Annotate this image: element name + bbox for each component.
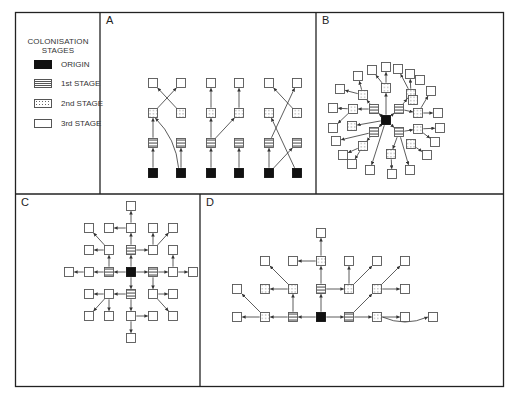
arrow-icon (271, 88, 294, 138)
third-stage-node-icon (345, 257, 354, 266)
third-stage-node-icon (169, 268, 178, 277)
third-stage-node-icon (406, 166, 415, 175)
arrow-icon (379, 114, 381, 116)
second-stage-node-icon (265, 109, 274, 118)
third-stage-node-icon (329, 104, 338, 113)
arrow-icon (155, 118, 178, 168)
third-stage-swatch-icon (34, 119, 52, 128)
third-stage-node-icon (149, 79, 158, 88)
third-stage-node-icon (169, 290, 178, 299)
arrow-icon (355, 151, 360, 159)
third-stage-node-icon (394, 65, 403, 74)
second-stage-node-icon (359, 91, 368, 100)
arrow-icon (376, 75, 382, 83)
second-stage-node-icon (414, 109, 423, 118)
third-stage-node-icon (169, 312, 178, 321)
first-stage-node-icon (127, 246, 136, 255)
third-stage-node-icon (423, 151, 432, 160)
third-stage-node-icon (293, 79, 302, 88)
origin-stage-node-icon (265, 169, 274, 178)
first-stage-swatch-icon (34, 79, 52, 88)
first-stage-node-icon (370, 105, 379, 114)
first-stage-node-icon (370, 128, 379, 137)
third-stage-node-icon (85, 224, 94, 233)
arrow-icon (382, 266, 400, 284)
third-stage-node-icon (406, 70, 415, 79)
second-stage-node-icon (373, 313, 382, 322)
first-stage-node-icon (395, 105, 404, 114)
first-stage-node-icon (149, 139, 158, 148)
panel-a-edges (153, 88, 295, 168)
arrow-icon (354, 294, 372, 312)
legend-item-origin: ORIGIN (34, 58, 89, 70)
third-stage-node-icon (436, 124, 445, 133)
second-stage-node-icon (289, 285, 298, 294)
third-stage-node-icon (434, 109, 443, 118)
third-stage-node-icon (127, 312, 136, 321)
legend-title-line1: COLONISATION (16, 37, 100, 46)
third-stage-node-icon (207, 79, 216, 88)
third-stage-node-icon (105, 224, 114, 233)
third-stage-node-icon (332, 137, 341, 146)
arrow-icon (158, 299, 169, 311)
origin-stage-node-icon (293, 169, 302, 178)
first-stage-node-icon (127, 290, 136, 299)
second-stage-node-icon (387, 150, 396, 159)
third-stage-node-icon (85, 312, 94, 321)
third-stage-node-icon (85, 268, 94, 277)
panel-b-nodes (329, 63, 445, 179)
colonisation-stages-figure: COLONISATION STAGES ORIGIN 1st STAGE 2nd… (0, 0, 516, 397)
third-stage-node-icon (127, 334, 136, 343)
third-stage-node-icon (65, 268, 74, 277)
legend-label-1st-stage: 1st STAGE (61, 79, 100, 88)
third-stage-node-icon (85, 246, 94, 255)
arrow-icon (423, 133, 430, 138)
arrow-icon (274, 148, 293, 168)
second-stage-node-icon (207, 109, 216, 118)
arrow-icon (421, 96, 428, 108)
legend-item-2nd-stage: 2nd STAGE (34, 97, 103, 109)
third-stage-node-icon (431, 138, 440, 147)
first-stage-node-icon (395, 128, 404, 137)
arrow-icon (348, 148, 358, 152)
first-stage-node-icon (317, 285, 326, 294)
third-stage-node-icon (149, 312, 158, 321)
third-stage-node-icon (149, 224, 158, 233)
arrow-icon (354, 266, 372, 284)
arrow-icon (423, 128, 434, 129)
second-stage-node-icon (414, 125, 423, 134)
arrow-icon (94, 299, 105, 311)
arrow-icon (345, 90, 357, 93)
first-stage-node-icon (345, 313, 354, 322)
legend-label-2nd-stage: 2nd STAGE (61, 99, 103, 108)
arrow-icon (270, 266, 288, 284)
first-stage-node-icon (293, 139, 302, 148)
arrow-icon (393, 137, 397, 148)
arrow-icon (404, 130, 412, 131)
arrow-icon (341, 133, 368, 139)
third-stage-node-icon (427, 87, 436, 96)
third-stage-node-icon (105, 246, 114, 255)
third-stage-node-icon (235, 79, 244, 88)
legend-title: COLONISATION STAGES (16, 37, 100, 55)
third-stage-node-icon (289, 257, 298, 266)
third-stage-node-icon (105, 312, 114, 321)
third-stage-node-icon (317, 229, 326, 238)
origin-stage-node-icon (177, 169, 186, 178)
third-stage-node-icon (149, 246, 158, 255)
arrow-icon (242, 294, 260, 312)
third-stage-node-icon (368, 66, 377, 75)
arrow-icon (367, 100, 370, 104)
third-stage-node-icon (127, 202, 136, 211)
arrow-icon (416, 148, 422, 152)
second-stage-node-icon (261, 313, 270, 322)
arrow-icon (357, 121, 380, 125)
second-stage-node-icon (359, 142, 368, 151)
origin-swatch-icon (34, 60, 52, 69)
arrow-icon (403, 99, 407, 104)
second-stage-node-icon (349, 105, 358, 114)
second-stage-node-icon (293, 109, 302, 118)
arrow-icon (158, 233, 169, 245)
second-stage-node-icon (317, 257, 326, 266)
third-stage-node-icon (401, 257, 410, 266)
